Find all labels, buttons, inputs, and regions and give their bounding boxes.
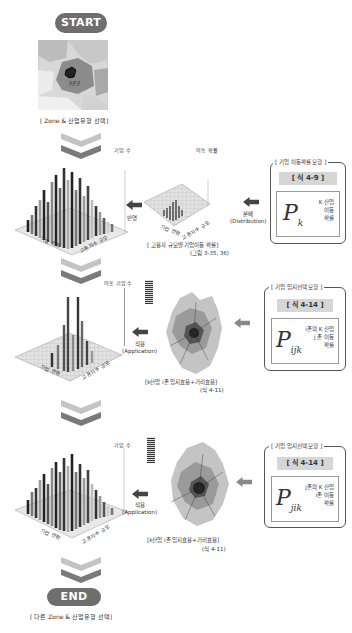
axis-z-label: 기업 수 — [114, 441, 131, 448]
chevron-down-icon — [61, 258, 101, 284]
formula-desc-line: i존 이동 — [305, 491, 334, 499]
application-label-ko: 적용 — [122, 502, 157, 509]
formula-desc-line: 이동 — [319, 206, 334, 214]
stage2-caption-ref: (식 4-11) — [200, 386, 224, 394]
arrow-left-icon — [132, 326, 148, 338]
formula-desc-line: j 존 이동 — [305, 333, 334, 341]
formula-desc-line: K 산업 — [319, 198, 334, 206]
formula-description: j존의 K 산업 i존 이동 확률 — [305, 483, 334, 507]
stage2-caption: [k산업 i존 입지효용+거리효용] — [145, 378, 217, 386]
model-title: [ 기업 입지선택 모형 ] — [269, 283, 324, 291]
model-box-location-choice: [ 기업 입지선택 모형 ] [ 식 4-14 ] Pijk i존의 K 산업 … — [264, 287, 346, 371]
formula-symbol: Pk — [283, 200, 303, 228]
arrow-left-icon — [132, 488, 148, 500]
formula-description: K 산업 이동 확률 — [319, 198, 334, 222]
arrow-left-icon — [234, 317, 250, 329]
reflect-label: 반영 — [127, 215, 137, 222]
axis-z-label: 기업 수 — [114, 146, 131, 153]
start-caption: [ Zone & 산업유형 선택] — [40, 116, 108, 125]
formula-symbol: Pijk — [276, 327, 302, 355]
formula-p: P — [276, 485, 291, 510]
zone-utility-map — [160, 288, 232, 378]
stage1-caption-ref: (그림 3-35, 36) — [190, 249, 229, 257]
distribution-label: 분배 (Distribution) — [230, 211, 266, 225]
zone-map: 구로구 — [38, 40, 108, 110]
application-label: 적용 (Application) — [122, 502, 157, 516]
formula-box: Pijk i존의 K 산업 j 존 이동 확률 — [271, 318, 339, 364]
axis-z-label: 이동 확률 — [196, 146, 218, 153]
application-label-en: (Application) — [122, 348, 157, 355]
stage1-caption: [ 고용자 규모별 기업이동 확률] — [147, 241, 218, 249]
equation-tag: [ 식 4-14 ] — [277, 457, 333, 470]
bar-chart-3d-result-firms — [10, 448, 130, 543]
arrow-left-icon — [126, 199, 142, 211]
model-title: [ 기업 이동확률 모형 ] — [273, 158, 328, 166]
end-button: END — [47, 588, 101, 606]
formula-desc-line: 확률 — [305, 341, 334, 349]
formula-subscript: k — [298, 218, 303, 228]
formula-box: Pjik j존의 K 산업 i존 이동 확률 — [271, 476, 339, 522]
end-caption: [ 다른 Zone & 산업유형 선택] — [30, 612, 112, 621]
formula-p: P — [276, 327, 291, 352]
formula-desc-line: j존의 K 산업 — [305, 483, 334, 491]
formula-desc-line: 확률 — [319, 214, 334, 222]
formula-desc-line: i존의 K 산업 — [305, 325, 334, 333]
bar-chart-3d-firm-count — [10, 160, 130, 260]
bar-chart-3d-moving-firms — [10, 295, 125, 385]
chevron-down-icon — [61, 133, 101, 159]
arrow-left-icon — [236, 476, 252, 488]
axis-z-line — [124, 288, 125, 346]
map-zone-label: 구로구 — [68, 80, 80, 86]
distribution-label-en: (Distribution) — [230, 218, 266, 225]
formula-symbol: Pjik — [276, 485, 302, 513]
application-label-en: (Application) — [122, 509, 157, 516]
stage3-caption-ref: (식 4-11) — [202, 545, 226, 553]
chevron-down-icon — [61, 557, 101, 583]
formula-description: i존의 K 산업 j 존 이동 확률 — [305, 325, 334, 349]
chevron-down-icon — [61, 400, 101, 426]
axis-z-label: 이동 기업 수 — [104, 279, 132, 286]
start-button: START — [55, 13, 107, 33]
formula-subscript: ijk — [291, 345, 302, 355]
formula-box: Pk K 산업 이동 확률 — [276, 191, 340, 237]
color-legend — [145, 280, 153, 304]
model-title: [ 기업 입지선택 모형 ] — [269, 442, 324, 450]
application-label: 적용 (Application) — [122, 341, 157, 355]
model-box-location-choice: [ 기업 입지선택 모형 ] [ 식 4-14 ] Pjik j존의 K 산업 … — [264, 446, 346, 528]
zone-utility-map — [163, 440, 239, 528]
formula-subscript: jik — [291, 503, 302, 513]
equation-tag: [ 식 4-14 ] — [277, 299, 333, 312]
formula-p: P — [283, 200, 298, 225]
formula-desc-line: 확률 — [305, 499, 334, 507]
distribution-label-ko: 분배 — [230, 211, 266, 218]
model-box-move-probability: [ 기업 이동확률 모형 ] [ 식 4-9 ] Pk K 산업 이동 확률 — [270, 162, 346, 244]
color-legend — [147, 437, 155, 463]
arrow-left-icon — [243, 196, 259, 208]
stage3-caption: [k산업 i존 입지효용+거리효용] — [147, 536, 219, 544]
application-label-ko: 적용 — [122, 341, 157, 348]
equation-tag: [ 식 4-9 ] — [279, 172, 337, 185]
